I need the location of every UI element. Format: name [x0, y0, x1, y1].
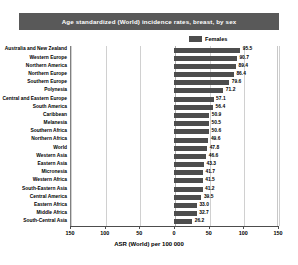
bar-females-5[interactable]	[174, 88, 223, 93]
category-label-10: Southern Africa	[0, 129, 67, 134]
bar-females-15[interactable]	[174, 170, 203, 175]
x-axis-label: ASR (World) per 100 000	[0, 241, 298, 247]
bar-row: Northern America89.4	[0, 62, 298, 70]
category-label-15: Micronesia	[0, 170, 67, 175]
bar-value-label-21: 26.2	[195, 219, 205, 224]
bar-females-11[interactable]	[174, 138, 208, 143]
category-label-9: Melanesia	[0, 121, 67, 126]
category-label-1: Western Europe	[0, 56, 67, 61]
bar-row: World47.8	[0, 144, 298, 152]
category-label-0: Australia and New Zealand	[0, 47, 67, 52]
bar-row: Central and Eastern Europe57.1	[0, 95, 298, 103]
category-label-3: Northern Europe	[0, 72, 67, 77]
bar-females-14[interactable]	[174, 162, 204, 167]
legend-label-females: Females	[205, 36, 227, 42]
bar-row: Western Africa41.5	[0, 177, 298, 185]
bar-value-label-11: 49.6	[211, 137, 221, 142]
category-label-14: Eastern Asia	[0, 162, 67, 167]
bar-females-6[interactable]	[174, 97, 214, 102]
bar-row: Caribbean50.9	[0, 111, 298, 119]
bar-females-2[interactable]	[174, 64, 236, 69]
bar-females-8[interactable]	[174, 113, 209, 118]
bar-value-label-7: 56.4	[216, 105, 226, 110]
bar-value-label-12: 47.8	[210, 146, 220, 151]
bar-value-label-1: 90.7	[239, 56, 249, 61]
bar-row: Western Asia46.6	[0, 152, 298, 160]
bar-value-label-16: 41.5	[205, 178, 215, 183]
category-label-21: South-Central Asia	[0, 219, 67, 224]
bar-row: South-Central Asia26.2	[0, 218, 298, 226]
bar-row: Eastern Africa33.0	[0, 201, 298, 209]
bar-value-label-19: 33.0	[199, 203, 209, 208]
bar-females-12[interactable]	[174, 146, 207, 151]
x-tick-label-0: 150	[66, 230, 75, 236]
bar-value-label-4: 79.6	[232, 80, 242, 85]
bar-row: Micronesia41.7	[0, 169, 298, 177]
page-title: Age standardized (World) incidence rates…	[62, 18, 237, 25]
legend-swatch-females	[189, 36, 202, 42]
bar-value-label-8: 50.9	[212, 113, 222, 118]
bar-females-4[interactable]	[174, 80, 229, 85]
x-tick-3	[174, 226, 175, 229]
bar-females-1[interactable]	[174, 56, 237, 61]
bar-females-3[interactable]	[174, 72, 234, 77]
bar-females-18[interactable]	[174, 195, 201, 200]
x-tick-label-4: 50	[206, 230, 212, 236]
bar-females-16[interactable]	[174, 178, 203, 183]
bar-value-label-15: 41.7	[205, 170, 215, 175]
bar-value-label-18: 39.5	[204, 195, 214, 200]
bar-females-20[interactable]	[174, 211, 197, 216]
bar-row: Melanesia50.5	[0, 120, 298, 128]
x-tick-label-1: 100	[100, 230, 109, 236]
category-label-5: Polynesia	[0, 88, 67, 93]
category-label-17: South-Eastern Asia	[0, 187, 67, 192]
bar-row: Northern Africa49.6	[0, 136, 298, 144]
bar-value-label-20: 32.7	[199, 211, 209, 216]
bar-females-21[interactable]	[174, 219, 192, 224]
x-tick-0	[70, 226, 71, 229]
bar-females-13[interactable]	[174, 154, 206, 159]
chart-title-bar: Age standardized (World) incidence rates…	[19, 13, 279, 30]
bar-value-label-13: 46.6	[209, 154, 219, 159]
category-label-20: Middle Africa	[0, 211, 67, 216]
category-label-4: Southern Europe	[0, 80, 67, 85]
bar-females-17[interactable]	[174, 187, 203, 192]
bar-value-label-2: 89.4	[238, 64, 248, 69]
bar-value-label-6: 57.1	[216, 97, 226, 102]
category-label-16: Western Africa	[0, 178, 67, 183]
bar-females-9[interactable]	[174, 121, 209, 126]
bar-row: South America56.4	[0, 103, 298, 111]
x-tick-5	[243, 226, 244, 229]
bar-rows: Australia and New Zealand95.5Western Eur…	[0, 46, 298, 226]
bar-row: Western Europe90.7	[0, 54, 298, 62]
bar-row: Southern Europe79.6	[0, 79, 298, 87]
bar-females-7[interactable]	[174, 105, 213, 110]
category-label-2: Northern America	[0, 64, 67, 69]
category-label-19: Eastern Africa	[0, 203, 67, 208]
x-tick-1	[105, 226, 106, 229]
bar-row: Polynesia71.2	[0, 87, 298, 95]
x-tick-label-6: 150	[274, 230, 283, 236]
bar-value-label-5: 71.2	[226, 88, 236, 93]
category-label-12: World	[0, 146, 67, 151]
x-tick-2	[139, 226, 140, 229]
x-tick-label-3: 0	[173, 230, 176, 236]
bar-row: Central America39.5	[0, 193, 298, 201]
bar-row: Northern Europe86.4	[0, 71, 298, 79]
bar-value-label-9: 50.5	[212, 121, 222, 126]
bar-value-label-0: 95.5	[243, 47, 253, 52]
category-label-13: Western Asia	[0, 154, 67, 159]
bar-value-label-14: 43.3	[207, 162, 217, 167]
bar-females-19[interactable]	[174, 203, 197, 208]
x-tick-4	[209, 226, 210, 229]
category-label-7: South America	[0, 105, 67, 110]
x-tick-label-5: 100	[239, 230, 248, 236]
x-tick-6	[278, 226, 279, 229]
x-tick-label-2: 50	[136, 230, 142, 236]
bar-value-label-17: 41.2	[205, 187, 215, 192]
bar-females-10[interactable]	[174, 129, 209, 134]
category-label-6: Central and Eastern Europe	[0, 97, 67, 102]
bar-value-label-10: 50.6	[212, 129, 222, 134]
chart-figure: Age standardized (World) incidence rates…	[0, 0, 298, 265]
bar-females-0[interactable]	[174, 48, 240, 53]
